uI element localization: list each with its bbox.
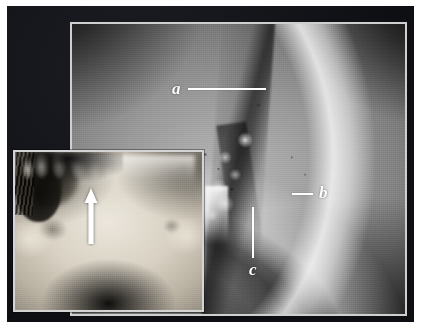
leader-line-c	[252, 207, 254, 258]
annotation-label-b: b	[319, 184, 328, 201]
up-arrow-icon	[84, 188, 98, 244]
skull-photograph-inset-panel	[13, 150, 204, 312]
annotation-label-a: a	[172, 80, 181, 97]
annotation-label-c: c	[249, 261, 257, 278]
inset-photo-grain	[15, 152, 202, 310]
leader-line-a	[188, 88, 266, 90]
leader-line-b	[292, 193, 313, 195]
figure-container: a b c	[0, 0, 421, 328]
